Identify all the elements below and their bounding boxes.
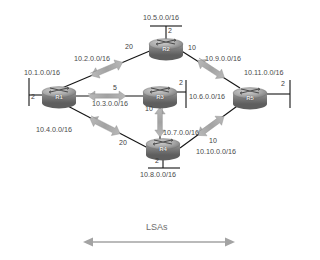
router-label-r1: R1: [50, 94, 68, 100]
link-cost-r3-r4: 10: [145, 105, 153, 112]
router-label-r5: R5: [241, 95, 259, 101]
stub-cost-r4: 2: [155, 157, 159, 164]
lsas-legend-label: LSAs: [146, 222, 168, 232]
stub-cost-r1: 2: [31, 93, 35, 100]
lsa-arrow-r1-r4: [87, 113, 122, 138]
link-label-r1-r2: 10.2.0.0/16: [74, 54, 110, 63]
link-label-r1-r4: 10.4.0.0/16: [36, 125, 72, 134]
stub-label-r3: 10.6.0.0/16: [189, 92, 225, 101]
router-label-r2: R2: [157, 46, 175, 52]
link-cost-r4-r5: 10: [209, 137, 217, 144]
stub-cost-r2: 2: [168, 27, 172, 34]
router-label-r3: R3: [151, 94, 169, 100]
link-cost-r1-r3: 5: [113, 84, 117, 91]
router-label-r4: R4: [154, 146, 172, 152]
stub-cost-r3: 2: [179, 79, 183, 86]
stub-label-r1: 10.1.0.0/16: [24, 68, 60, 77]
link-label-r2-r5: 10.9.0.0/16: [205, 54, 241, 63]
link-label-r1-r3: 10.3.0.0/16: [92, 99, 128, 108]
stub-label-r4: 10.8.0.0/16: [140, 170, 176, 179]
link-label-r3-r4: 10.7.0.0/16: [163, 128, 199, 137]
stub-label-r5: 10.11.0.0/16: [244, 68, 283, 77]
link-label-r4-r5: 10.10.0.0/16: [196, 147, 236, 156]
lsas-legend-arrow: [83, 238, 235, 247]
link-cost-r1-r4: 20: [119, 139, 127, 146]
link-cost-r1-r2: 20: [125, 43, 133, 50]
lsa-arrow-r4-r5: [195, 112, 227, 140]
stub-label-r2: 10.5.0.0/16: [143, 13, 179, 22]
link-cost-r2-r5: 10: [188, 44, 196, 51]
stub-cost-r5: 2: [281, 80, 285, 87]
